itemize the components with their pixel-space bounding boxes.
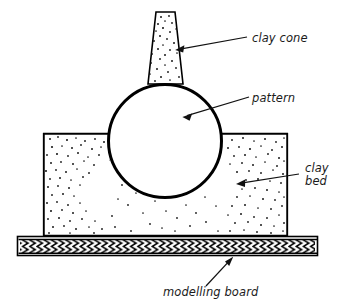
pattern-label: pattern — [251, 91, 295, 105]
diagram-canvas: clay cone pattern clay bed modelling boa… — [0, 0, 339, 308]
clay-cone-label: clay cone — [252, 31, 308, 45]
clay-cone-leader — [175, 37, 247, 53]
modelling-board-part — [18, 237, 318, 256]
clay-bed-label-line2: bed — [305, 174, 328, 188]
clay-bed-label-line1: clay — [305, 161, 329, 175]
modelling-board-label: modelling board — [163, 285, 259, 299]
modelling-board-hatch — [20, 240, 315, 253]
clay-cone-outline — [148, 12, 183, 84]
clay-bed-moulding-diagram: clay cone pattern clay bed modelling boa… — [0, 0, 339, 308]
clay-cone-part — [148, 12, 183, 84]
pattern-circle — [109, 85, 222, 198]
modelling-board-leader — [206, 257, 233, 286]
pattern-part — [109, 85, 222, 198]
